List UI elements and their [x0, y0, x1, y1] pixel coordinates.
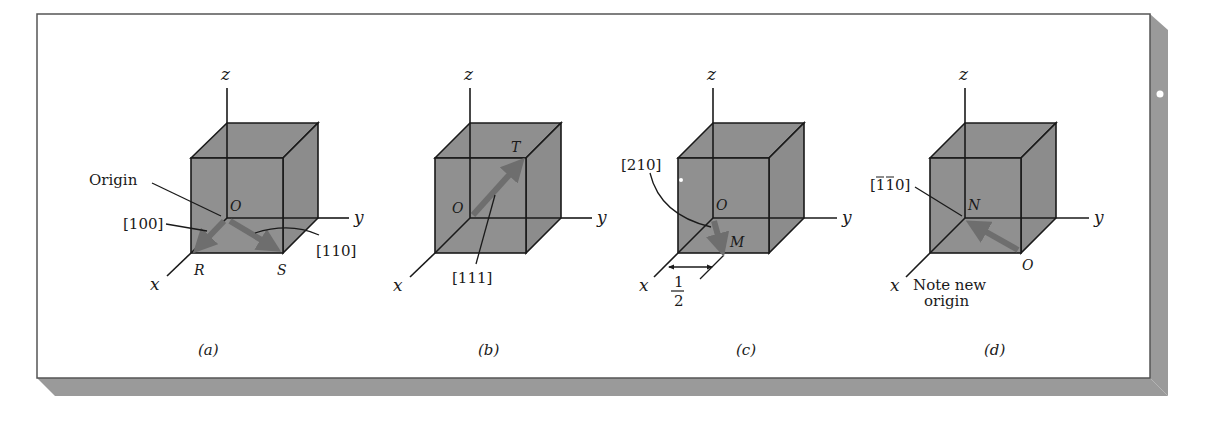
svg-text:[110]: [110] [870, 176, 910, 194]
caption-a: (a) [198, 341, 219, 359]
origin-callout: Origin [89, 171, 138, 189]
speck [1157, 91, 1164, 98]
point-m-label: M [729, 234, 745, 250]
dir-100-label: [100] [123, 215, 163, 233]
point-n-label: N [967, 197, 981, 213]
dir-110-label: [110] [316, 242, 356, 260]
x-label: x [639, 275, 649, 295]
panel-shadow-bottom [37, 378, 1168, 396]
z-label: z [958, 64, 969, 84]
x-label: x [890, 275, 900, 295]
crystal-directions-figure: z y x O R S Origin [100] [110] (a) z y x… [0, 0, 1209, 426]
dir-bar1-bar1-0-label: [110] [870, 176, 910, 194]
x-label: x [393, 275, 403, 295]
speck [679, 178, 683, 182]
panel-shadow-right [1150, 14, 1168, 396]
x-label: x [150, 274, 160, 294]
y-label: y [841, 207, 852, 227]
z-label: z [220, 64, 231, 84]
caption-d: (d) [984, 341, 1005, 359]
half-denominator: 2 [674, 292, 684, 310]
note-new-origin-line2: origin [924, 292, 969, 310]
origin-point-label: O [230, 198, 242, 214]
point-r-label: R [193, 262, 205, 278]
half-numerator: 1 [674, 273, 684, 291]
caption-b: (b) [478, 341, 499, 359]
speck [1158, 396, 1164, 402]
origin-point-label: O [452, 200, 464, 216]
point-s-label: S [277, 262, 287, 278]
y-label: y [1093, 207, 1104, 227]
dir-111-label: [111] [452, 269, 492, 287]
z-label: z [463, 64, 474, 84]
y-label: y [353, 207, 364, 227]
origin-point-label: O [716, 197, 728, 213]
y-label: y [596, 207, 607, 227]
dir-210-label: [210] [621, 156, 661, 174]
new-origin-label: O [1022, 257, 1034, 273]
z-label: z [706, 64, 717, 84]
caption-c: (c) [736, 341, 756, 359]
